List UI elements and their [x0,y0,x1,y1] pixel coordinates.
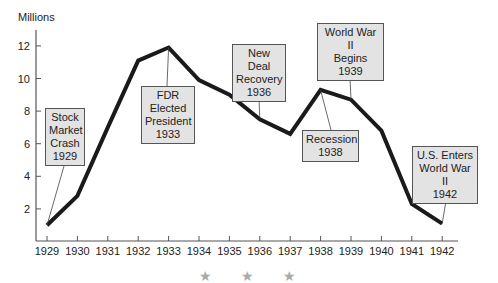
svg-text:1935: 1935 [217,245,241,257]
svg-text:1937: 1937 [278,245,302,257]
svg-text:1929: 1929 [35,245,59,257]
svg-text:2: 2 [24,203,30,215]
svg-text:1942: 1942 [430,245,454,257]
svg-text:1933: 1933 [156,245,180,257]
star-icon: ★ [283,268,296,283]
svg-text:6: 6 [24,138,30,150]
svg-text:1931: 1931 [96,245,120,257]
svg-text:1934: 1934 [187,245,211,257]
svg-text:8: 8 [24,105,30,117]
annotation-fdr-elected: FDRElectedPresident1933 [141,86,195,144]
svg-text:1938: 1938 [308,245,332,257]
svg-text:12: 12 [18,40,30,52]
svg-text:1936: 1936 [248,245,272,257]
annotation-new-deal-recovery: New DealRecovery1936 [232,44,286,102]
svg-text:1930: 1930 [65,245,89,257]
svg-text:1932: 1932 [126,245,150,257]
annotation-world-war-ii-begins: World War IIBegins1939 [317,23,384,81]
svg-text:1939: 1939 [339,245,363,257]
annotation-stock-market-crash: StockMarketCrash1929 [45,108,85,166]
svg-text:10: 10 [18,73,30,85]
svg-text:4: 4 [24,170,30,182]
star-icon: ★ [199,268,212,283]
annotation-recession: Recession1938 [302,130,359,162]
annotation-us-enters-war: U.S. EntersWorld War II1942 [412,146,478,204]
svg-text:1940: 1940 [369,245,393,257]
star-icon: ★ [241,268,254,283]
svg-text:1941: 1941 [400,245,424,257]
svg-text:Millions: Millions [18,11,55,23]
